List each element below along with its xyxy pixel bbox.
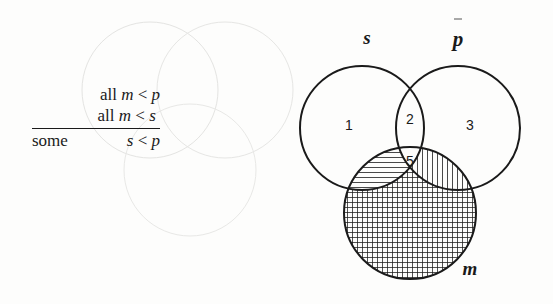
region-2-label: 2 xyxy=(406,111,414,127)
label-s: s xyxy=(362,27,370,48)
label-m: m xyxy=(463,258,478,279)
region-3-label: 3 xyxy=(466,117,474,133)
label-p: p xyxy=(451,27,464,51)
region-5-label: 5 xyxy=(406,153,414,169)
venn-diagram: s p m 1 2 3 5 xyxy=(0,0,553,304)
region-1-label: 1 xyxy=(345,117,353,133)
